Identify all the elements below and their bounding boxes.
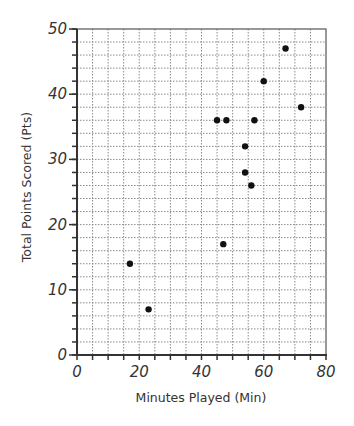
- x-tick-label: 20: [130, 363, 149, 381]
- data-point: [223, 117, 229, 123]
- x-tick-label: 40: [192, 363, 211, 381]
- y-tick-label: 20: [48, 216, 67, 234]
- y-tick-label: 10: [48, 281, 67, 299]
- axis-ticks: [69, 29, 326, 360]
- data-points: [127, 45, 305, 312]
- x-tick-label: 60: [254, 363, 273, 381]
- scatter-chart: 02040608001020304050 Minutes Played (Min…: [0, 0, 354, 426]
- y-axis-label: Total Points Scored (Pts): [19, 112, 34, 263]
- data-point: [261, 78, 267, 84]
- data-point: [242, 169, 248, 175]
- data-point: [282, 45, 288, 51]
- data-point: [242, 143, 248, 149]
- tick-labels: 02040608001020304050: [48, 20, 336, 381]
- y-tick-label: 0: [57, 346, 67, 364]
- x-axis-label: Minutes Played (Min): [136, 390, 267, 405]
- data-point: [220, 241, 226, 247]
- data-point: [251, 117, 257, 123]
- data-point: [298, 104, 304, 110]
- data-point: [145, 306, 151, 312]
- y-tick-label: 50: [48, 20, 67, 38]
- y-tick-label: 40: [48, 85, 67, 103]
- x-tick-label: 80: [316, 363, 335, 381]
- grid-lines: [77, 29, 326, 355]
- x-tick-label: 0: [72, 363, 82, 381]
- y-tick-label: 30: [48, 150, 67, 168]
- data-point: [248, 182, 254, 188]
- data-point: [214, 117, 220, 123]
- data-point: [127, 261, 133, 267]
